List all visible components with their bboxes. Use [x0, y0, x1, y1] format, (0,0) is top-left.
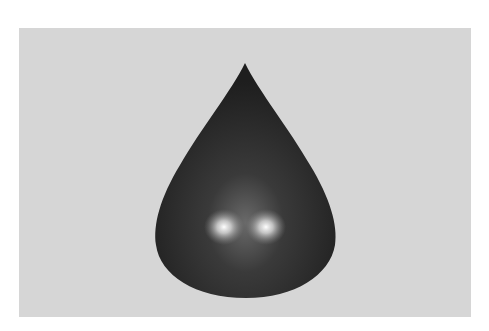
highlight-left [204, 209, 244, 245]
highlight-right [246, 209, 286, 245]
liquid-drop-illustration [0, 0, 489, 331]
drop-body [155, 63, 335, 298]
